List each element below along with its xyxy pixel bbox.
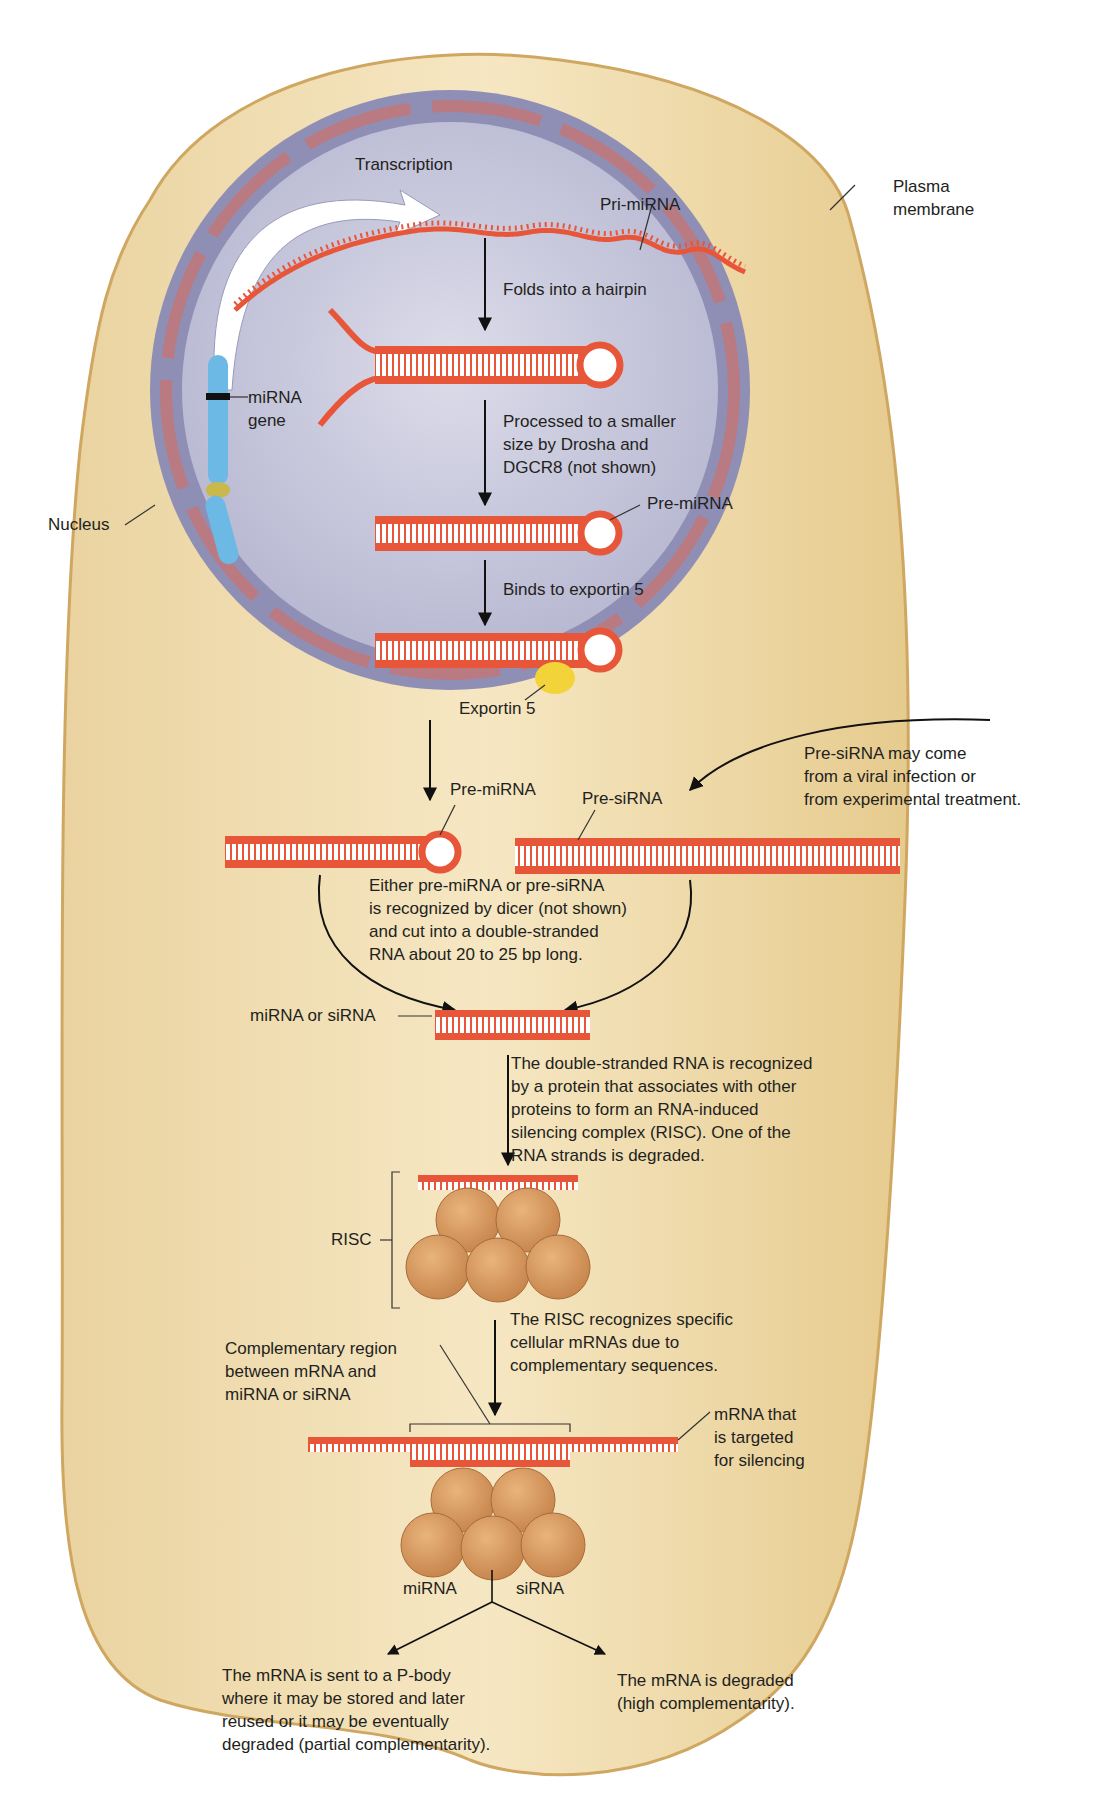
label-nucleus: Nucleus xyxy=(48,513,109,536)
exportin-5-protein xyxy=(535,662,575,694)
label-pre-mirna-cytoplasm: Pre-miRNA xyxy=(450,778,536,801)
label-transcription: Transcription xyxy=(355,153,453,176)
label-mirna-or-sirna: miRNA or siRNA xyxy=(250,1004,376,1027)
label-binds-exportin: Binds to exportin 5 xyxy=(503,578,644,601)
label-branch-sirna: siRNA xyxy=(516,1577,564,1600)
mirna-sirna-duplex xyxy=(435,1010,590,1040)
label-pre-sirna-source: Pre-siRNA may come from a viral infectio… xyxy=(804,742,1021,811)
label-pre-sirna: Pre-siRNA xyxy=(582,787,662,810)
label-mirna-gene: miRNA gene xyxy=(248,386,302,432)
label-branch-mirna: miRNA xyxy=(403,1577,457,1600)
nucleus xyxy=(150,90,750,690)
pre-mirna-cytoplasm xyxy=(225,834,458,870)
label-risc-forms: The double-stranded RNA is recognized by… xyxy=(511,1052,812,1167)
label-dicer: Either pre-miRNA or pre-siRNA is recogni… xyxy=(369,874,627,966)
pre-mirna-nucleus xyxy=(375,514,619,552)
label-exportin-5: Exportin 5 xyxy=(459,697,536,720)
label-plasma-membrane: Plasma membrane xyxy=(893,175,1023,221)
label-complementary-region: Complementary region between mRNA and mi… xyxy=(225,1337,397,1406)
label-folds-hairpin: Folds into a hairpin xyxy=(503,278,647,301)
label-outcome-sirna: The mRNA is degraded (high complementari… xyxy=(617,1669,795,1715)
pre-sirna xyxy=(515,838,900,874)
label-pri-mirna: Pri-miRNA xyxy=(600,193,680,216)
label-risc-recognizes: The RISC recognizes specific cellular mR… xyxy=(510,1308,733,1377)
label-mrna-targeted: mRNA that is targeted for silencing xyxy=(714,1403,805,1472)
label-processed: Processed to a smaller size by Drosha an… xyxy=(503,410,676,479)
label-pre-mirna-nucleus: Pre-miRNA xyxy=(647,492,733,515)
label-risc: RISC xyxy=(331,1228,372,1251)
label-outcome-mirna: The mRNA is sent to a P-body where it ma… xyxy=(222,1664,490,1756)
